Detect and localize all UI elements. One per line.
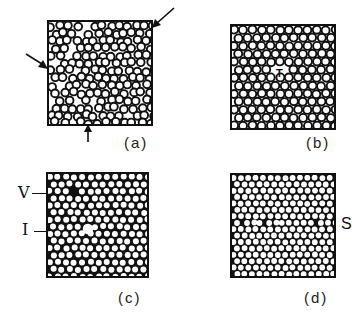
panel-b-bubble-raft: T [230,24,336,130]
arrow-icon-top-right [150,6,176,32]
grain-boundary-label: S [341,215,352,233]
bubble-raft-d [232,175,334,276]
bubble-raft-b: T [232,26,334,128]
vacancy-leader-line [32,193,48,194]
panel-b-label: (b) [306,134,330,151]
bubble-raft-c [48,174,147,276]
interstitial-leader-line [34,231,48,232]
panel-d-bubble-raft [230,173,336,278]
svg-text:T: T [276,67,283,79]
bubble-raft-a [49,22,151,124]
panel-a-bubble-raft [47,20,153,126]
arrow-icon-left [24,52,50,72]
panel-c-label: (c) [118,289,142,306]
panel-c-bubble-raft [46,172,149,278]
vacancy-label: V [18,183,30,202]
panel-a-label: (a) [124,134,148,151]
interstitial-label: I [22,220,28,239]
arrow-icon-bottom [82,124,94,142]
panel-d-label: (d) [304,289,328,306]
